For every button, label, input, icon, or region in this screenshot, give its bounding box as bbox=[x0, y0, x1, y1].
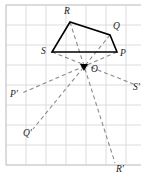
dashed-rays bbox=[22, 22, 136, 163]
label-point-R: R bbox=[63, 6, 70, 16]
figure-canvas: SRQPOP'Q'R'S' bbox=[0, 0, 141, 178]
label-point-S: S bbox=[41, 46, 46, 56]
ray-R-to-Rprime bbox=[70, 22, 115, 163]
label-point-Pprime: P' bbox=[9, 89, 19, 99]
quadrilateral-SRQP bbox=[52, 22, 117, 52]
label-point-Q: Q bbox=[113, 21, 120, 31]
label-point-O: O bbox=[91, 64, 98, 74]
label-point-Sprime: S' bbox=[133, 82, 141, 92]
geometry-figure: SRQPOP'Q'R'S' bbox=[0, 0, 141, 178]
label-point-Qprime: Q' bbox=[23, 128, 33, 138]
grid-lines bbox=[6, 5, 141, 165]
point-labels: SRQPOP'Q'R'S' bbox=[9, 6, 141, 174]
label-point-P: P bbox=[119, 48, 126, 58]
label-point-Rprime: R' bbox=[115, 164, 125, 174]
ray-P-to-Pprime bbox=[22, 52, 117, 93]
